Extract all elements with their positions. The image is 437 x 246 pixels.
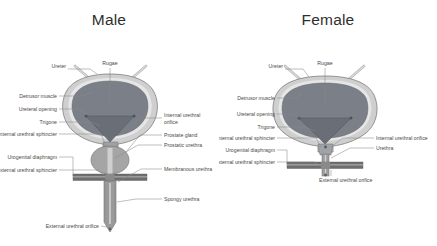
male-label-prostate-gland: Prostate gland [164, 132, 198, 138]
panel-female: Female [219, 0, 437, 246]
male-label-internal-urethral-orifice-line2: orifice [164, 119, 178, 125]
female-label-urethra: Urethra [376, 145, 393, 151]
external-urethral-sphincter-shape [321, 162, 330, 169]
male-label-membranous-urethra: Membranous urethra [164, 166, 212, 172]
ureteral-opening-left [85, 115, 88, 118]
male-label-internal-urethral-orifice-line1: Internal urethral [164, 112, 200, 118]
ureter-left-shape [285, 66, 301, 80]
female-label-internal-urethral-sphincter: Internal urethral sphincter [219, 135, 275, 141]
male-label-prostatic-urethra: Prostatic urethra [164, 142, 202, 148]
female-label-detrusor-muscle: Detrusor muscle [237, 95, 275, 101]
female-label-ureter: Ureter [269, 63, 284, 69]
panel-male: Male [0, 0, 218, 246]
male-label-external-urethral-sphincter: External urethral sphincter [0, 167, 57, 173]
male-label-trigone: Trigone [40, 119, 58, 125]
male-label-internal-urethral-sphincter: Internal urethral sphincter [0, 131, 57, 137]
female-diagram: Ureter Rugae Detrusor muscle Ureteral op… [219, 0, 437, 246]
female-label-internal-urethral-orifice: Internal urethral orifice [376, 135, 428, 141]
female-label-urogenital-diaphragm: Urogenital diaphragm [225, 147, 275, 153]
urinary-bladder-anatomy-figure: Male [0, 0, 437, 246]
ureteral-opening-right [133, 115, 136, 118]
female-label-external-urethral-orifice: External urethral orifice [319, 177, 372, 183]
female-label-external-urethral-sphincter: External urethral sphincter [219, 159, 275, 165]
ureteral-opening-right [350, 117, 353, 120]
female-label-trigone: Trigone [258, 124, 276, 130]
male-label-spongy-urethra: Spongy urethra [164, 196, 200, 202]
female-label-ureteral-opening: Ureteral opening [237, 111, 275, 117]
male-label-urogenital-diaphragm: Urogenital diaphragm [7, 154, 57, 160]
male-label-ureter: Ureter [52, 63, 67, 69]
male-label-ureteral-opening: Ureteral opening [19, 106, 57, 112]
prostatic-urethra-shape [108, 148, 113, 174]
ureter-right-shape [348, 66, 364, 80]
internal-urethral-orifice-shape [324, 146, 327, 149]
male-label-detrusor-muscle: Detrusor muscle [19, 93, 57, 99]
male-diagram: Ureter Rugae Detrusor muscle Ureteral op… [0, 0, 218, 246]
male-label-external-urethral-orifice: External urethral orifice [46, 223, 99, 229]
female-label-rugae: Rugae [317, 60, 332, 66]
male-label-rugae: Rugae [102, 60, 117, 66]
external-urethral-orifice-shape [324, 174, 327, 177]
